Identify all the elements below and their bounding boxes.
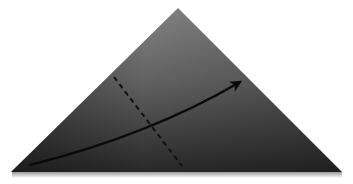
diagram-canvas (0, 0, 353, 184)
origami-diagram (0, 0, 353, 184)
paper-shading (11, 8, 342, 172)
paper-shadow (12, 172, 342, 178)
